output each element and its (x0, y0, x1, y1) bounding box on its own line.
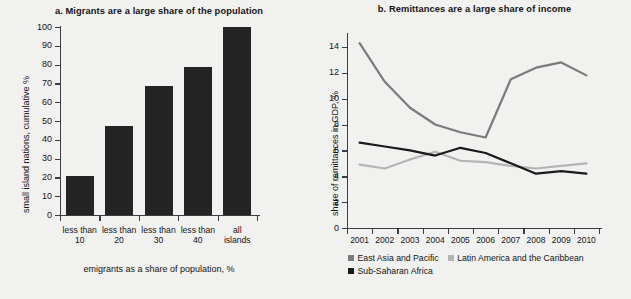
panel-a-x-axis-line (58, 215, 260, 216)
panel-b-y-axis-label: share of remittances in GDP, % (330, 91, 340, 216)
panel-a-y-tick-label: 80 (20, 60, 52, 69)
legend-swatch-icon (348, 255, 354, 261)
panel-b-year-label: 2010 (571, 235, 602, 245)
panel-a-category-label: allislands (212, 225, 263, 245)
legend-item[interactable]: Latin America and the Caribbean (448, 252, 584, 265)
panel-b-x-tick (599, 229, 600, 234)
panel-a-x-tick (99, 216, 100, 221)
panel-b-x-tick (523, 229, 524, 234)
panel-b-x-tick (448, 229, 449, 234)
panel-b-y-tick-label: 14 (312, 42, 339, 51)
figure-two-panel-chart: a. Migrants are a large share of the pop… (0, 0, 631, 299)
panel-b-y-tick-label: 12 (312, 68, 339, 77)
panel-b-x-tick (473, 229, 474, 234)
panel-b-plot-area (347, 34, 599, 228)
panel-a-y-tick-label: 100 (20, 23, 52, 32)
legend-label: Sub-Saharan Africa (358, 266, 433, 276)
legend-swatch-icon (448, 255, 454, 261)
legend-swatch-icon (348, 268, 354, 274)
table-row (145, 86, 173, 215)
table-row (223, 27, 251, 215)
panel-b-y-tick-label: 0 (312, 224, 339, 233)
panel-b-x-tick (372, 229, 373, 234)
table-row (105, 126, 133, 215)
panel-b-series-line (360, 43, 587, 137)
panel-a-plot-area (60, 27, 257, 215)
panel-b-x-tick (498, 229, 499, 234)
panel-b-x-tick (423, 229, 424, 234)
panel-b-line-chart: b. Remittances are a large share of inco… (318, 0, 631, 299)
panel-b-series-line (360, 143, 587, 174)
panel-a-x-axis-label: emigrants as a share of population, % (0, 264, 318, 274)
panel-a-x-tick (60, 216, 61, 221)
panel-a-title: a. Migrants are a large share of the pop… (0, 6, 318, 16)
panel-a-x-tick (139, 216, 140, 221)
panel-a-x-tick (218, 216, 219, 221)
panel-a-bar-chart: a. Migrants are a large share of the pop… (0, 0, 318, 299)
legend-row: East Asia and PacificLatin America and t… (348, 252, 630, 265)
panel-a-y-axis-label: small island nations, cumulative % (21, 76, 31, 213)
panel-a-category-label-line: all (212, 225, 263, 235)
legend-row: Sub-Saharan Africa (348, 265, 630, 278)
panel-a-category-label-line: islands (212, 235, 263, 245)
panel-b-legend: East Asia and PacificLatin America and t… (348, 252, 630, 277)
panel-a-x-tick (257, 216, 258, 221)
legend-item[interactable]: East Asia and Pacific (348, 252, 439, 265)
panel-b-x-tick (549, 229, 550, 234)
panel-b-title: b. Remittances are a large share of inco… (318, 4, 631, 14)
panel-a-y-tick-label: 90 (20, 41, 52, 50)
legend-item[interactable]: Sub-Saharan Africa (348, 265, 433, 278)
panel-b-series-lines (347, 34, 599, 228)
panel-b-x-tick (397, 229, 398, 234)
panel-b-series-line (360, 152, 587, 169)
table-row (66, 176, 94, 216)
table-row (184, 67, 212, 216)
panel-a-x-tick (178, 216, 179, 221)
legend-label: East Asia and Pacific (358, 253, 439, 263)
legend-label: Latin America and the Caribbean (457, 253, 584, 263)
panel-b-x-tick (574, 229, 575, 234)
panel-b-x-tick (347, 229, 348, 234)
